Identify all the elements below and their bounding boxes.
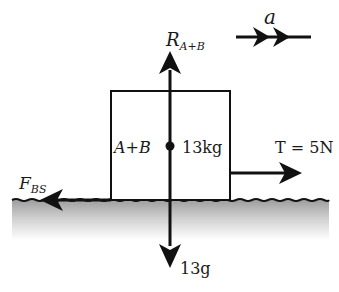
friction-subscript: BS <box>30 183 47 196</box>
tension-label: T = 5N <box>275 138 333 157</box>
body-name-label: A+B <box>112 138 151 157</box>
acceleration-label: a <box>264 5 276 29</box>
reaction-subscript: A+B <box>179 40 205 53</box>
reaction-label: RA+B <box>165 29 205 53</box>
reaction-symbol: R <box>165 29 180 50</box>
weight-label: 13g <box>180 259 211 278</box>
body-mass-label: 13kg <box>182 138 222 157</box>
friction-label: FBS <box>18 173 47 196</box>
weight-arrowhead-icon <box>159 244 181 268</box>
free-body-diagram: a RA+B A+B 13kg T = 5N FBS 13g <box>0 0 339 292</box>
center-of-mass-dot <box>166 142 175 151</box>
